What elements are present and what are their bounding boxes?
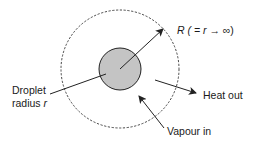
droplet-leader-line: [50, 74, 106, 94]
heat-out-label: Heat out: [203, 89, 243, 101]
droplet-label-line2: radius r: [12, 97, 48, 109]
droplet-label-line1: Droplet: [12, 84, 46, 96]
vapour-in-label: Vapour in: [167, 125, 211, 137]
droplet-radius-var: r: [44, 97, 48, 109]
outer-radius-suffix: ∞): [223, 24, 234, 36]
heat-out-arrow: [155, 80, 196, 93]
droplet-diagram: R ( = r → ∞) Droplet radius r Heat out V…: [0, 0, 254, 145]
outer-radius-prefix: R ( =: [177, 24, 203, 36]
droplet-radius-prefix: radius: [12, 97, 44, 109]
outer-radius-arrow-glyph: →: [206, 24, 222, 36]
outer-radius-label: R ( = r → ∞): [177, 24, 234, 36]
